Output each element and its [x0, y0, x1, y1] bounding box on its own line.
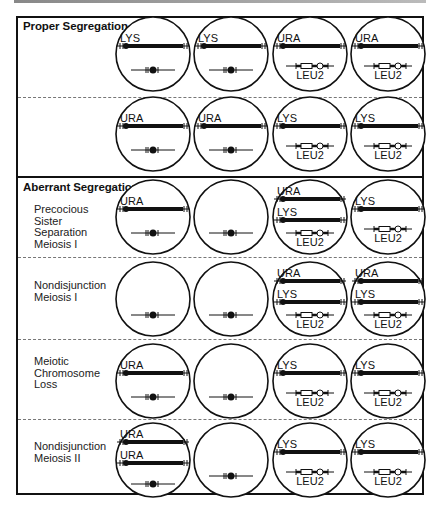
spore-proper-1-4: URALEU2 — [348, 14, 428, 94]
spore-proper-1-1: LYS — [113, 14, 193, 94]
svg-text:LEU2: LEU2 — [296, 475, 324, 487]
svg-text:URA: URA — [198, 112, 222, 124]
spore-pss-meiosis-1-2 — [191, 177, 271, 257]
spore-proper-1-3: URALEU2 — [270, 14, 350, 94]
svg-text:URA: URA — [120, 195, 144, 207]
spore-meiotic-chromosome-loss-4: LYSLEU2 — [348, 341, 428, 421]
svg-text:URA: URA — [120, 428, 144, 440]
svg-text:URA: URA — [120, 359, 144, 371]
row-label-meiotic-chromosome-loss: MeioticChromosomeLoss — [34, 356, 100, 391]
spore-nondisjunction-meiosis-2-2 — [191, 420, 271, 500]
svg-text:LEU2: LEU2 — [374, 396, 402, 408]
spore-nondisjunction-meiosis-1-3: URALYSLEU2 — [270, 259, 350, 339]
spore-proper-2-2: URA — [191, 94, 271, 174]
spore-pss-meiosis-1-1: URA — [113, 177, 193, 257]
svg-text:LEU2: LEU2 — [296, 396, 324, 408]
svg-text:LYS: LYS — [355, 288, 375, 300]
spore-meiotic-chromosome-loss-3: LYSLEU2 — [270, 341, 350, 421]
row-separator — [18, 339, 422, 340]
spore-nondisjunction-meiosis-1-1 — [113, 259, 193, 339]
spore-proper-1-2: LYS — [191, 14, 271, 94]
svg-text:URA: URA — [120, 449, 144, 461]
spore-proper-2-4: LYSLEU2 — [348, 94, 428, 174]
spore-nondisjunction-meiosis-2-4: LYSLEU2 — [348, 420, 428, 500]
svg-text:LYS: LYS — [277, 206, 297, 218]
spore-meiotic-chromosome-loss-2 — [191, 341, 271, 421]
svg-text:LEU2: LEU2 — [296, 236, 324, 248]
spore-meiotic-chromosome-loss-1: URA — [113, 341, 193, 421]
spore-nondisjunction-meiosis-1-4: URALYSLEU2 — [348, 259, 428, 339]
svg-text:URA: URA — [355, 267, 379, 279]
svg-text:URA: URA — [277, 185, 301, 197]
svg-text:LYS: LYS — [277, 438, 297, 450]
row-label-nondisjunction-meiosis-2: NondisjunctionMeiosis II — [34, 441, 106, 464]
top-rule — [14, 0, 426, 3]
spore-nondisjunction-meiosis-1-2 — [191, 259, 271, 339]
spore-proper-2-1: URA — [113, 94, 193, 174]
svg-text:LEU2: LEU2 — [296, 318, 324, 330]
svg-text:LYS: LYS — [355, 359, 375, 371]
svg-text:LYS: LYS — [277, 359, 297, 371]
spore-pss-meiosis-1-3: URALYSLEU2 — [270, 177, 350, 257]
row-separator — [18, 257, 422, 258]
svg-text:LEU2: LEU2 — [374, 318, 402, 330]
svg-text:LEU2: LEU2 — [296, 149, 324, 161]
spore-pss-meiosis-1-4: LYSLEU2 — [348, 177, 428, 257]
svg-text:LEU2: LEU2 — [374, 69, 402, 81]
row-label-precocious-sister-separation: PrecociousSisterSeparationMeiosis I — [34, 204, 88, 250]
svg-text:LEU2: LEU2 — [374, 149, 402, 161]
svg-text:URA: URA — [277, 32, 301, 44]
svg-text:URA: URA — [120, 112, 144, 124]
svg-text:LYS: LYS — [355, 195, 375, 207]
row-label-nondisjunction-meiosis-1: NondisjunctionMeiosis I — [34, 280, 106, 303]
svg-text:LEU2: LEU2 — [296, 69, 324, 81]
svg-text:LYS: LYS — [277, 288, 297, 300]
svg-text:LYS: LYS — [198, 32, 218, 44]
svg-text:LEU2: LEU2 — [374, 232, 402, 244]
spore-proper-2-3: LYSLEU2 — [270, 94, 350, 174]
spore-nondisjunction-meiosis-2-3: LYSLEU2 — [270, 420, 350, 500]
svg-text:URA: URA — [355, 32, 379, 44]
spore-nondisjunction-meiosis-2-1: URAURA — [113, 420, 193, 500]
svg-text:LYS: LYS — [120, 32, 140, 44]
svg-text:LYS: LYS — [355, 438, 375, 450]
svg-text:LYS: LYS — [355, 112, 375, 124]
svg-text:LEU2: LEU2 — [374, 475, 402, 487]
svg-text:URA: URA — [277, 267, 301, 279]
svg-text:LYS: LYS — [277, 112, 297, 124]
